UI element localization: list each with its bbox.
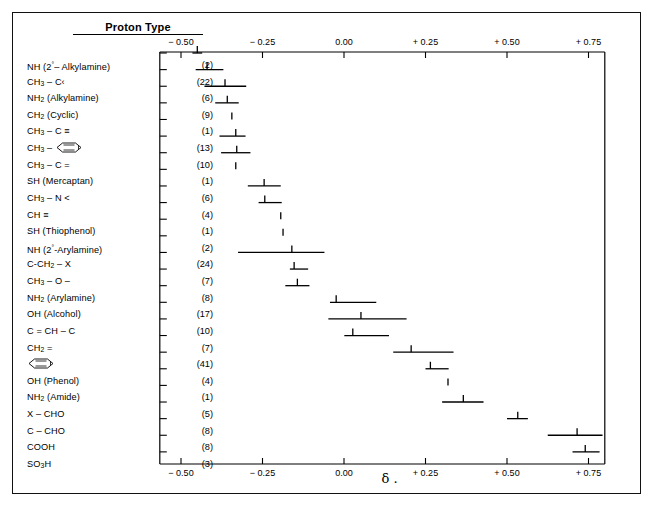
proton-count: (6) xyxy=(179,91,213,105)
proton-type-label: SH (Mercaptan) xyxy=(27,174,93,188)
chart-axes xyxy=(13,13,642,495)
proton-type-label: NH2 (Amide) xyxy=(27,390,80,404)
proton-count: (8) xyxy=(179,291,213,305)
proton-count: (2) xyxy=(179,58,213,72)
proton-type-label: NH (2°– Alkylamine) xyxy=(27,58,110,72)
proton-type-label: CH3 – xyxy=(27,141,83,155)
figure-frame: Proton Type NH (2°– Alkylamine)(2)CH3 – … xyxy=(12,12,641,494)
proton-count: (8) xyxy=(179,440,213,454)
proton-type-label: CH ≡ xyxy=(27,208,48,222)
proton-count: (10) xyxy=(179,324,213,338)
proton-count: (22) xyxy=(179,75,213,89)
proton-type-label: CH3 – C = xyxy=(27,158,70,172)
proton-count: (17) xyxy=(179,307,213,321)
proton-type-label: OH (Alcohol) xyxy=(27,307,81,321)
proton-type-label: X – CHO xyxy=(27,407,64,421)
proton-type-label: SO3H xyxy=(27,457,51,471)
proton-count: (1) xyxy=(179,174,213,188)
proton-type-label: OH (Phenol) xyxy=(27,374,79,388)
proton-type-label: CH3 – N < xyxy=(27,191,70,205)
proton-count: (6) xyxy=(179,191,213,205)
proton-type-label: NH2 (Alkylamine) xyxy=(27,91,99,105)
proton-count: (4) xyxy=(179,208,213,222)
proton-type-label: C-CH2 – X xyxy=(27,257,71,271)
proton-type-label: CH3 – O – xyxy=(27,274,70,288)
x-axis-tick-label-top: + 0.25 xyxy=(413,37,438,47)
x-axis-tick-label-top: − 0.25 xyxy=(250,37,275,47)
proton-count: (1) xyxy=(179,390,213,404)
proton-count: (10) xyxy=(179,158,213,172)
proton-count: (8) xyxy=(179,424,213,438)
x-axis-tick-label-bottom: + 0.25 xyxy=(413,468,438,478)
proton-count: (24) xyxy=(179,257,213,271)
chart-plot-area: − 0.50− 0.50− 0.25− 0.250.000.00+ 0.25+ … xyxy=(13,13,642,495)
proton-type-label: CH3 – C‹ xyxy=(27,75,65,89)
x-axis-tick-label-top: − 0.50 xyxy=(168,37,193,47)
proton-type-label: CH2 (Cyclic) xyxy=(27,108,78,122)
x-axis-tick-label-bottom: 0.00 xyxy=(335,468,353,478)
x-axis-tick-label-top: + 0.75 xyxy=(576,37,601,47)
proton-type-label xyxy=(27,357,55,371)
x-axis-tick-label-top: 0.00 xyxy=(335,37,353,47)
x-axis-tick-label-bottom: + 0.50 xyxy=(494,468,519,478)
proton-count: (9) xyxy=(179,108,213,122)
proton-type-label: NH2 (Arylamine) xyxy=(27,291,95,305)
proton-count: (41) xyxy=(179,357,213,371)
proton-count: (7) xyxy=(179,341,213,355)
proton-count: (1) xyxy=(179,224,213,238)
proton-count: (5) xyxy=(179,407,213,421)
proton-count: (3) xyxy=(179,457,213,471)
proton-count: (1) xyxy=(179,124,213,138)
proton-type-label: COOH xyxy=(27,440,55,454)
proton-type-label: C – CHO xyxy=(27,424,65,438)
x-axis-tick-label-bottom: + 0.75 xyxy=(576,468,601,478)
proton-type-label: C = CH – C xyxy=(27,324,75,338)
proton-count: (7) xyxy=(179,274,213,288)
proton-count: (4) xyxy=(179,374,213,388)
proton-type-label: NH (2°-Arylamine) xyxy=(27,241,102,255)
x-axis-title-delta: δ . xyxy=(381,471,397,486)
proton-type-label: CH3 – C ≡ xyxy=(27,124,69,138)
proton-count: (2) xyxy=(179,241,213,255)
page-title: Proton Type xyxy=(73,21,203,35)
proton-type-label: SH (Thiophenol) xyxy=(27,224,95,238)
proton-count: (13) xyxy=(179,141,213,155)
x-axis-tick-label-bottom: − 0.25 xyxy=(250,468,275,478)
chart-series xyxy=(13,13,642,495)
proton-type-label: CH2 = xyxy=(27,341,53,355)
x-axis-tick-label-top: + 0.50 xyxy=(494,37,519,47)
